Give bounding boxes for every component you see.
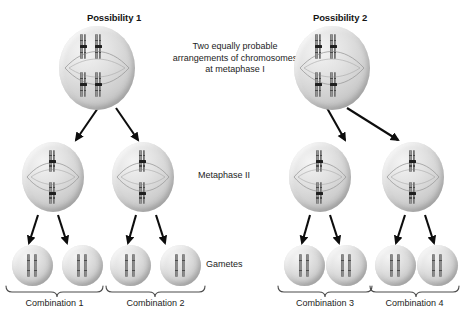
arrow-p2-right [347,108,398,140]
gametes-label: Gametes [206,259,243,269]
combination-4-label: Combination 4 [370,298,459,308]
arrow-p1-mii-right-b [156,215,165,243]
chromosome-dup [409,150,415,172]
chromosome-single [84,254,87,277]
chromosome-single [77,254,80,277]
brace-combination-4 [370,286,459,297]
arrow-p2-mii-right-a [396,215,405,243]
possibility-1-title: Possibility 1 [54,12,174,23]
gamete-cell-3 [110,245,151,286]
chromosome-group-gamete-7 [375,245,416,286]
chromosome-single [175,254,178,277]
combination-3-label: Combination 3 [278,298,372,308]
chromosome-single [306,254,309,277]
chromosome-single [125,254,128,277]
chromosome-group-gamete-5 [284,245,325,286]
meiosis-independent-assortment-diagram: Possibility 1 Possibility 2 Two equally … [0,0,461,313]
gamete-cell-2 [62,245,103,286]
chromosome-single [397,254,400,277]
chromosome-single [34,254,37,277]
brace-combination-1 [6,286,103,297]
chromosome-group-gamete-2 [62,245,103,286]
metaphase-I-caption: Two equally probable arrangements of chr… [170,41,300,76]
chromosome-dup [95,34,101,59]
combination-2-label: Combination 2 [106,298,205,308]
brace-combination-2 [106,286,205,297]
chromosome-dup [139,150,145,172]
arrow-p1-mii-left-a [29,215,38,243]
chromosome-dup [316,182,322,204]
chromosome-dup [330,34,336,59]
chromosome-group-mii-4 [382,142,444,212]
chromosome-group-gamete-4 [160,245,201,286]
chromosome-group-gamete-8 [417,245,458,286]
gamete-cell-6 [326,245,367,286]
gamete-cell-7 [375,245,416,286]
chromosome-single [390,254,393,277]
metaphase-II-cell-2 [112,142,174,212]
arrow-p2-mii-left-b [330,215,339,243]
chromosome-single [299,254,302,277]
chromosome-single [27,254,30,277]
brace-combination-3 [278,286,372,297]
chromosome-dup [316,150,322,172]
metaphase-II-cell-4 [382,142,444,212]
chromosome-dup [139,182,145,204]
chromosome-single [132,254,135,277]
chromosome-dup [315,34,321,59]
gamete-cell-4 [160,245,201,286]
arrow-p1-left [76,108,98,140]
chromosome-single [341,254,344,277]
chromosome-dup [330,72,336,97]
combination-1-label: Combination 1 [6,298,103,308]
chromosome-dup [409,182,415,204]
metaphase-II-cell-3 [289,142,351,212]
chromosome-single [432,254,435,277]
arrow-p1-right [116,108,138,140]
chromosome-dup [80,34,86,59]
chromosome-group-gamete-6 [326,245,367,286]
chromosome-group-mii-2 [112,142,174,212]
chromosome-single [439,254,442,277]
arrow-p2-left [327,108,345,140]
chromosome-group-mii-3 [289,142,351,212]
metaphase-I-cell-possibility-2 [294,26,370,110]
chromosome-single [348,254,351,277]
metaphase-II-cell-1 [22,142,84,212]
arrow-p1-mii-left-b [58,215,67,243]
chromosome-group-gamete-1 [12,245,53,286]
chromosome-group-metaphase-I-p2 [294,26,370,110]
gamete-cell-5 [284,245,325,286]
chromosome-dup [49,182,55,204]
arrow-p2-mii-right-b [425,215,434,243]
chromosome-dup [315,72,321,97]
gamete-cell-1 [12,245,53,286]
chromosome-dup [95,72,101,97]
chromosome-group-metaphase-I-p1 [59,26,135,110]
chromosome-group-gamete-3 [110,245,151,286]
metaphase-II-label: Metaphase II [198,170,250,180]
chromosome-dup [80,72,86,97]
gamete-cell-8 [417,245,458,286]
chromosome-group-mii-1 [22,142,84,212]
metaphase-I-cell-possibility-1 [59,26,135,110]
chromosome-single [182,254,185,277]
arrow-p2-mii-left-a [302,215,310,243]
chromosome-dup [49,150,55,172]
arrow-p1-mii-right-a [128,215,136,243]
possibility-2-title: Possibility 2 [280,12,400,23]
